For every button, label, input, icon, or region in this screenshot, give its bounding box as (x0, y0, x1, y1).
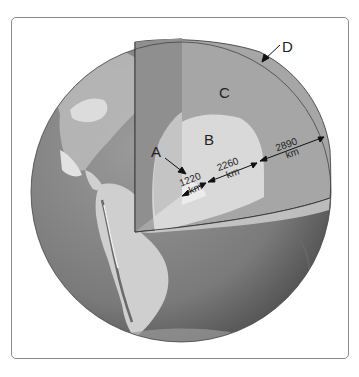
earth-cutaway-diagram: A B C D 1220 km 2260 km 2890 km (0, 0, 359, 377)
label-b: B (204, 131, 214, 148)
label-d: D (282, 38, 293, 55)
label-a: A (151, 143, 161, 160)
label-c: C (219, 84, 230, 101)
cutaway-wedge (135, 38, 331, 233)
